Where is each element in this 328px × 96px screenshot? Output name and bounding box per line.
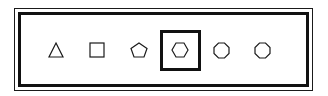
shape-option-pentagon[interactable]: [130, 42, 148, 58]
shape-option-square[interactable]: [89, 42, 105, 58]
triangle-icon: [48, 42, 64, 58]
square-icon: [89, 42, 105, 58]
shape-option-octagon-1[interactable]: [213, 42, 230, 59]
shape-option-octagon-2[interactable]: [254, 42, 271, 59]
octagon-icon: [213, 42, 230, 59]
pentagon-icon: [130, 42, 148, 58]
shape-option-hexagon[interactable]: [171, 42, 189, 58]
hexagon-icon: [171, 42, 189, 58]
shape-option-triangle[interactable]: [48, 42, 64, 58]
octagon-icon: [254, 42, 271, 59]
